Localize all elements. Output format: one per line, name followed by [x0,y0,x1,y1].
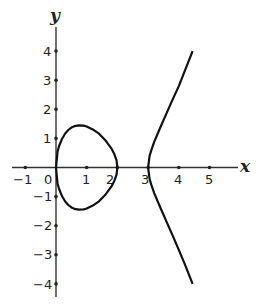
y-tick-label-1: 1 [43,131,51,146]
x-tick-label-4: 4 [174,172,182,187]
x-tick-label-5: 5 [205,172,213,187]
y-tick-label-neg3: −3 [33,247,52,262]
y-tick-label-neg1: −1 [33,189,52,204]
y-tick-label-4: 4 [43,44,51,59]
x-tick-label-1: 1 [82,172,90,187]
x-axis-label: x [239,156,251,176]
y-tick-label-2: 2 [43,102,51,117]
x-tick-label-neg1: −1 [13,172,32,187]
elliptic-curve-chart: −1 0 1 2 3 4 5 4 3 2 1 −1 −2 −3 −4 x y [0,0,259,307]
y-tick-label-neg4: −4 [33,277,52,292]
y-tick-label-3: 3 [43,73,51,88]
y-axis-label: y [49,5,61,25]
chart-canvas: −1 0 1 2 3 4 5 4 3 2 1 −1 −2 −3 −4 x y [0,0,259,307]
x-tick-label-0: 0 [44,172,52,187]
y-tick-label-neg2: −2 [33,218,52,233]
